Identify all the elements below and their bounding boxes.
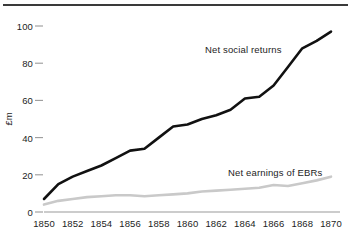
x-axis-tick-label: 1860 <box>177 218 199 229</box>
x-axis-tick-label: 1866 <box>263 218 285 229</box>
x-axis-tick-label: 1868 <box>292 218 314 229</box>
series-line-net-earnings-ebrs <box>44 177 331 205</box>
x-axis-tick-label: 1862 <box>205 218 227 229</box>
x-axis-tick-label: 1856 <box>119 218 141 229</box>
x-axis-tick-label: 1850 <box>33 218 55 229</box>
x-axis-tick-label: 1854 <box>91 218 113 229</box>
y-axis-tick-label: 0 <box>6 207 33 218</box>
chart-plot-area <box>0 0 351 239</box>
x-axis-tick-label: 1864 <box>234 218 256 229</box>
annotation-net-earnings-ebrs: Net earnings of EBRs <box>228 167 322 178</box>
x-axis-tick-label: 1852 <box>62 218 84 229</box>
y-axis-tick-label: 20 <box>6 169 33 180</box>
y-axis-tick-label: 60 <box>6 95 33 106</box>
y-axis-tick-label: 100 <box>6 21 33 32</box>
y-axis-tick-label: 80 <box>6 58 33 69</box>
y-axis-tick-label: 40 <box>6 132 33 143</box>
chart-figure: £m 020406080100 185018521854185618581860… <box>0 0 351 239</box>
x-axis-tick-label: 1858 <box>148 218 170 229</box>
y-axis-tick-marks <box>35 26 43 212</box>
x-axis-tick-label: 1870 <box>320 218 342 229</box>
y-axis-label: £m <box>3 112 14 125</box>
annotation-net-social-returns: Net social returns <box>205 44 282 55</box>
